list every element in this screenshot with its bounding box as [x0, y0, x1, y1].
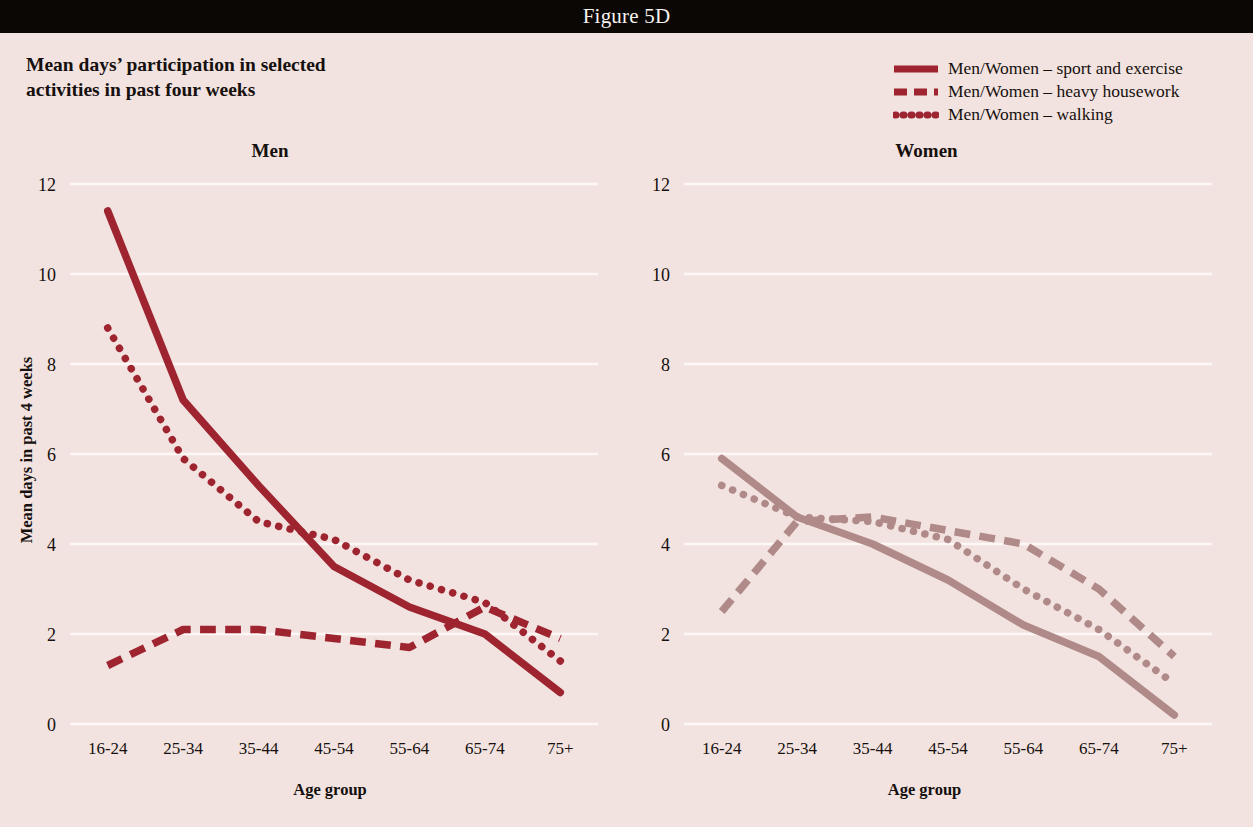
x-axis-label-men: Age group: [30, 780, 630, 800]
plot-area-women: 02468101216-2425-3435-4445-5455-6465-747…: [622, 166, 1247, 786]
legend-item-sport: Men/Women – sport and exercise: [893, 57, 1243, 80]
legend-label-walking: Men/Women – walking: [948, 104, 1113, 125]
y-tick-label: 12: [38, 175, 56, 195]
x-tick-label: 65-74: [1079, 739, 1119, 758]
x-tick-label: 35-44: [853, 739, 893, 758]
dotted-line-icon: [893, 107, 939, 123]
x-tick-label: 55-64: [390, 739, 430, 758]
legend: Men/Women – sport and exercise Men/Women…: [893, 57, 1243, 126]
panel-men: Men 02468101216-2425-3435-4445-5455-6465…: [8, 140, 608, 820]
x-tick-label: 16-24: [88, 739, 128, 758]
x-tick-label: 35-44: [239, 739, 279, 758]
legend-item-housework: Men/Women – heavy housework: [893, 80, 1243, 103]
y-tick-label: 2: [661, 625, 670, 645]
x-tick-label: 75+: [547, 739, 574, 758]
legend-label-housework: Men/Women – heavy housework: [948, 81, 1179, 102]
y-tick-label: 4: [661, 535, 670, 555]
legend-item-walking: Men/Women – walking: [893, 103, 1243, 126]
y-tick-label: 12: [652, 175, 670, 195]
y-tick-label: 8: [47, 355, 56, 375]
x-tick-label: 65-74: [465, 739, 505, 758]
x-tick-label: 25-34: [163, 739, 203, 758]
figure-label: Figure 5D: [0, 0, 1253, 33]
x-axis-label-women: Age group: [612, 780, 1237, 800]
dashed-line-icon: [893, 84, 939, 100]
figure-header-bar: Figure 5D: [0, 0, 1253, 33]
legend-label-sport: Men/Women – sport and exercise: [948, 58, 1183, 79]
x-tick-label: 55-64: [1004, 739, 1044, 758]
x-tick-label: 45-54: [928, 739, 968, 758]
y-tick-label: 4: [47, 535, 56, 555]
y-tick-label: 10: [652, 265, 670, 285]
x-tick-label: 16-24: [702, 739, 742, 758]
x-tick-label: 75+: [1161, 739, 1188, 758]
chart-title-line-1: Mean days’ participation in selected: [26, 52, 546, 77]
y-axis-label-men: Mean days in past 4 weeks: [17, 285, 37, 615]
y-tick-label: 6: [47, 445, 56, 465]
series-line: [722, 459, 1175, 716]
panel-heading-men: Men: [0, 140, 570, 162]
y-tick-label: 10: [38, 265, 56, 285]
solid-line-icon: [893, 61, 939, 77]
panel-women: Women 02468101216-2425-3435-4445-5455-64…: [622, 140, 1247, 820]
y-tick-label: 6: [661, 445, 670, 465]
y-tick-label: 8: [661, 355, 670, 375]
x-tick-label: 25-34: [777, 739, 817, 758]
x-tick-label: 45-54: [314, 739, 354, 758]
panel-heading-women: Women: [614, 140, 1239, 162]
y-tick-label: 2: [47, 625, 56, 645]
y-tick-label: 0: [47, 715, 56, 735]
plot-area-men: 02468101216-2425-3435-4445-5455-6465-747…: [8, 166, 608, 786]
chart-title-line-2: activities in past four weeks: [26, 77, 546, 102]
y-tick-label: 0: [661, 715, 670, 735]
figure-container: Figure 5D Mean days’ participation in se…: [0, 0, 1253, 827]
chart-title: Mean days’ participation in selected act…: [26, 52, 546, 102]
